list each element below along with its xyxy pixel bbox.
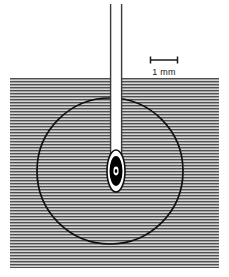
scale-bar-label: 1 mm [152,67,175,77]
diagram-canvas: 1 mm [0,0,229,277]
needle-tip-lesion-core [107,150,125,192]
needle-insertion-diagram: 1 mm [0,0,229,277]
scale-bar: 1 mm [150,57,178,78]
tip-core-point [115,169,118,173]
